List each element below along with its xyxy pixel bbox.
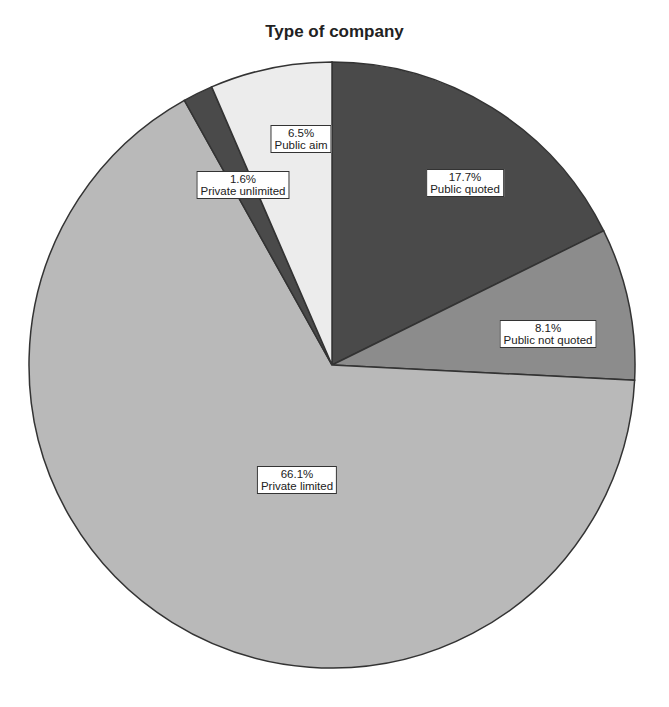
slice-label-public-quoted: 17.7% Public quoted	[426, 169, 504, 197]
slice-label-public-not-quoted: 8.1% Public not quoted	[500, 320, 597, 348]
pie-chart	[0, 0, 669, 707]
slice-label-private-unlimited: 1.6% Private unlimited	[196, 171, 289, 199]
slice-label-public-aim: 6.5% Public aim	[270, 125, 331, 153]
slice-label-private-limited: 66.1% Private limited	[257, 466, 337, 494]
